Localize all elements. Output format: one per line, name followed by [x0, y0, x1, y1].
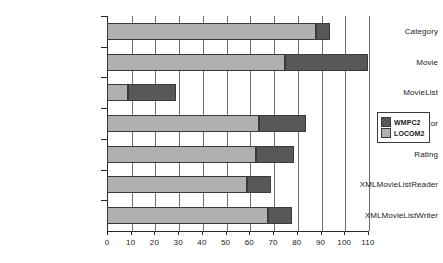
- bar-segment-locom2: [107, 176, 247, 193]
- bar-segment-locom2: [107, 207, 268, 224]
- y-tick: [101, 200, 107, 201]
- bar-segment-wmpc2: [285, 54, 368, 71]
- x-tick-label: 100: [331, 238, 357, 247]
- x-tick: [249, 231, 250, 235]
- x-tick: [154, 231, 155, 235]
- x-tick-label: 0: [94, 238, 120, 247]
- x-tick-label: 50: [213, 238, 239, 247]
- bar-segment-wmpc2: [247, 176, 271, 193]
- legend-label-locom2: LOCOM2: [394, 130, 425, 137]
- y-tick: [101, 47, 107, 48]
- x-tick-label: 20: [141, 238, 167, 247]
- x-tick-label: 70: [260, 238, 286, 247]
- bar-row: [0, 54, 443, 71]
- bar-segment-wmpc2: [128, 84, 175, 101]
- y-tick: [101, 16, 107, 17]
- x-axis-line: [107, 231, 368, 232]
- bar-segment-wmpc2: [316, 23, 330, 40]
- x-tick-label: 60: [236, 238, 262, 247]
- x-tick-label: 10: [118, 238, 144, 247]
- legend-swatch-locom2: [381, 128, 391, 138]
- bar-segment-wmpc2: [268, 207, 292, 224]
- x-tick: [273, 231, 274, 235]
- x-tick: [297, 231, 298, 235]
- y-tick: [101, 170, 107, 171]
- x-tick-label: 90: [308, 238, 334, 247]
- bar-row: [0, 146, 443, 163]
- legend-item-locom2: LOCOM2: [381, 128, 425, 138]
- x-tick: [226, 231, 227, 235]
- legend-label-wmpc2: WMPC2: [394, 119, 421, 126]
- bar-segment-locom2: [107, 146, 256, 163]
- legend-swatch-wmpc2: [381, 117, 391, 127]
- x-tick-label: 30: [165, 238, 191, 247]
- y-tick: [101, 139, 107, 140]
- y-tick: [101, 108, 107, 109]
- x-tick-label: 110: [355, 238, 381, 247]
- y-tick: [101, 77, 107, 78]
- x-tick: [368, 231, 369, 235]
- x-tick: [131, 231, 132, 235]
- x-tick-label: 80: [284, 238, 310, 247]
- x-tick: [202, 231, 203, 235]
- x-tick: [107, 231, 108, 235]
- bar-row: [0, 207, 443, 224]
- x-tick-label: 40: [189, 238, 215, 247]
- chart-legend: WMPC2 LOCOM2: [377, 112, 430, 143]
- bar-segment-locom2: [107, 84, 128, 101]
- bar-segment-locom2: [107, 115, 259, 132]
- bar-segment-wmpc2: [256, 146, 294, 163]
- bar-segment-wmpc2: [259, 115, 306, 132]
- bar-segment-locom2: [107, 54, 285, 71]
- bar-row: [0, 23, 443, 40]
- x-tick: [344, 231, 345, 235]
- legend-item-wmpc2: WMPC2: [381, 117, 425, 127]
- bar-chart-figure: 0102030405060708090100110 CategoryMovieM…: [0, 0, 443, 263]
- bar-segment-locom2: [107, 23, 316, 40]
- x-tick: [178, 231, 179, 235]
- x-tick: [321, 231, 322, 235]
- bar-row: [0, 84, 443, 101]
- bar-row: [0, 176, 443, 193]
